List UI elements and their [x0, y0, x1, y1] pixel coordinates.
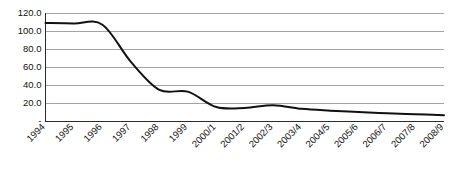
x-axis-tick-label: 2000/1: [189, 121, 217, 149]
x-axis-tick-label: 1996: [81, 121, 104, 144]
x-axis-tick-label: 2007/8: [389, 121, 417, 149]
x-axis-tick-label: 2008/9: [417, 121, 445, 149]
x-axis-tick-label: 1998: [138, 121, 161, 144]
line-chart: -20.040.060.080.0100.0120.0 199419951996…: [0, 0, 457, 170]
x-axis-tick-label: 1999: [167, 121, 190, 144]
chart-canvas: -20.040.060.080.0100.0120.0 199419951996…: [0, 0, 457, 170]
x-axis-tick-label: 2001/2: [218, 121, 246, 149]
y-axis-tick-label: 40.0: [23, 79, 42, 90]
x-axis-tick-label: 1994: [24, 121, 47, 144]
x-axis-tick-label: 2004/5: [303, 121, 331, 149]
x-axis-tick-label: 1995: [53, 121, 76, 144]
x-axis-tick-label: 1997: [110, 121, 133, 144]
y-axis-tick-label: 120.0: [18, 7, 42, 18]
x-axis-tick-label: 2003/4: [275, 121, 303, 149]
y-axis-tick-label: 80.0: [23, 43, 42, 54]
y-axis-tick-label: 60.0: [23, 61, 42, 72]
x-axis-tick-labels: 1994199519961997199819992000/12001/22002…: [24, 121, 445, 149]
x-axis-tick-label: 2002/3: [246, 121, 274, 149]
x-axis-tick-label: 2005/6: [332, 121, 360, 149]
y-axis-tick-labels: -20.040.060.080.0100.0120.0: [18, 7, 42, 126]
data-series-line: [46, 22, 445, 116]
x-axis-tick-label: 2006/7: [360, 121, 388, 149]
y-axis-tick-label: 20.0: [23, 97, 42, 108]
y-axis-tick-label: 100.0: [18, 25, 42, 36]
